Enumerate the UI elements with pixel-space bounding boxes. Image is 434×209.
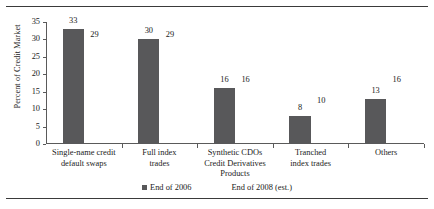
chart-figure: Percent of Credit Market 051015202530353… bbox=[0, 0, 434, 209]
bar bbox=[214, 88, 235, 144]
x-axis-category-label: Single-name creditdefault swaps bbox=[46, 148, 122, 169]
bar bbox=[365, 99, 386, 144]
y-tick-mark bbox=[43, 39, 47, 40]
bar-value-label: 16 bbox=[231, 76, 261, 84]
legend-entry: End of 2008 (est.) bbox=[223, 184, 291, 192]
y-tick-label: 30 bbox=[20, 35, 40, 43]
top-rule bbox=[6, 6, 428, 7]
y-tick-mark bbox=[43, 127, 47, 128]
x-axis-category-line: trades bbox=[122, 159, 198, 170]
y-tick-mark bbox=[43, 57, 47, 58]
legend-swatch bbox=[142, 185, 147, 190]
x-axis-category-line: default swaps bbox=[46, 159, 122, 170]
legend-label: End of 2008 (est.) bbox=[231, 183, 291, 192]
y-tick-label: 35 bbox=[20, 18, 40, 26]
bar-value-label: 16 bbox=[382, 76, 412, 84]
y-axis-line bbox=[46, 22, 47, 144]
x-axis-category-line: Products bbox=[197, 169, 273, 180]
y-tick-mark bbox=[43, 92, 47, 93]
legend-entry: End of 2006 bbox=[142, 184, 191, 192]
x-axis-category-line: Single-name credit bbox=[46, 148, 122, 159]
bar-value-label: 33 bbox=[58, 17, 88, 25]
bottom-rule bbox=[6, 198, 428, 199]
x-tick-mark bbox=[273, 144, 274, 148]
bar-value-label: 29 bbox=[79, 31, 109, 39]
x-axis-category-line: Others bbox=[348, 148, 424, 159]
x-tick-mark bbox=[348, 144, 349, 148]
y-tick-label: 25 bbox=[20, 53, 40, 61]
y-tick-label: 10 bbox=[20, 105, 40, 113]
x-tick-mark bbox=[197, 144, 198, 148]
x-axis-category-line: Tranched bbox=[273, 148, 349, 159]
x-axis-category-label: Others bbox=[348, 148, 424, 159]
bar bbox=[386, 88, 407, 144]
y-tick-label: 20 bbox=[20, 70, 40, 78]
y-tick-label: 0 bbox=[20, 140, 40, 148]
x-axis-category-label: Full indextrades bbox=[122, 148, 198, 169]
y-tick-mark bbox=[43, 74, 47, 75]
bar bbox=[138, 39, 159, 144]
y-tick-label: 5 bbox=[20, 123, 40, 131]
bar bbox=[159, 43, 180, 144]
bar bbox=[289, 116, 310, 144]
bar-value-label: 29 bbox=[155, 31, 185, 39]
y-tick-mark bbox=[43, 109, 47, 110]
x-axis-category-line: Synthetic CDOs bbox=[197, 148, 273, 159]
x-axis-category-line: Credit Derivatives bbox=[197, 159, 273, 170]
x-tick-mark bbox=[122, 144, 123, 148]
plot-area: 051015202530353329302916168101316 bbox=[46, 22, 424, 144]
bar bbox=[63, 29, 84, 144]
x-axis-category-label: Synthetic CDOsCredit DerivativesProducts bbox=[197, 148, 273, 180]
y-tick-mark bbox=[43, 22, 47, 23]
x-axis-category-line: Full index bbox=[122, 148, 198, 159]
x-tick-mark bbox=[424, 144, 425, 148]
legend-label: End of 2006 bbox=[150, 183, 191, 192]
x-axis-category-line: index trades bbox=[273, 159, 349, 170]
legend-swatch bbox=[223, 185, 228, 190]
bar bbox=[311, 109, 332, 144]
bar bbox=[235, 88, 256, 144]
bar-value-label: 10 bbox=[306, 97, 336, 105]
x-axis-category-label: Tranchedindex trades bbox=[273, 148, 349, 169]
chart-legend: End of 2006End of 2008 (est.) bbox=[0, 184, 434, 192]
y-tick-label: 15 bbox=[20, 88, 40, 96]
bar bbox=[84, 43, 105, 144]
y-tick-mark bbox=[43, 144, 47, 145]
